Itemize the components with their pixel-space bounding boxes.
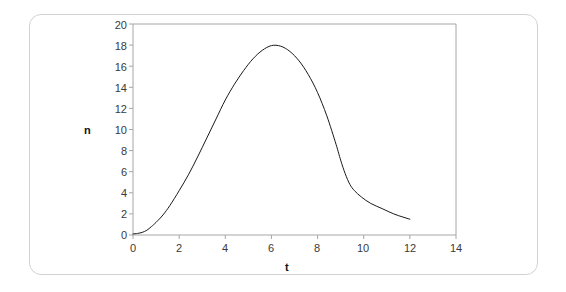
x-tick-marks bbox=[133, 235, 456, 239]
y-tick-marks bbox=[129, 24, 133, 235]
plot-area bbox=[0, 0, 566, 292]
line-chart: 20 18 16 14 12 10 8 6 4 2 0 n 0 2 4 6 8 … bbox=[0, 0, 566, 292]
data-series-line bbox=[133, 45, 410, 234]
